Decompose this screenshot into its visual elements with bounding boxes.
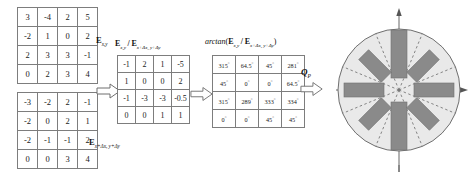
cell: 289° <box>236 92 259 110</box>
table-row: 3 -4 2 5 <box>18 8 98 27</box>
table-row: 45° 0° 0° 64.5° <box>213 74 305 92</box>
degree-symbol: ° <box>272 114 274 119</box>
cell: 0 <box>18 150 38 169</box>
ratio-numerator: Ex,y <box>115 39 126 48</box>
cell: -3 <box>136 90 154 107</box>
cell: -2 <box>18 27 38 46</box>
degree-symbol: ° <box>274 96 276 101</box>
cell: 1 <box>154 107 172 124</box>
cell: -2 <box>18 131 38 150</box>
arctan-close-paren: ) <box>274 37 277 46</box>
table-row: 0 2 3 4 <box>18 65 98 84</box>
rose-bar <box>414 83 454 97</box>
label-qp: QP <box>301 68 311 79</box>
cell: 0° <box>236 110 259 128</box>
cell: -0.5 <box>172 90 190 107</box>
cell: -1 <box>118 56 136 73</box>
cell-value: 281 <box>287 62 296 69</box>
cell: 3 <box>58 150 78 169</box>
cell: 2 <box>78 27 98 46</box>
rose-bar <box>391 30 407 78</box>
cell: -2 <box>38 93 58 112</box>
degree-symbol: ° <box>228 60 230 65</box>
table-row: -1 -3 -3 -0.5 <box>118 90 190 107</box>
matrix-exdx-ydy: -3 -2 2 -1 -2 0 2 1 -2 -1 -1 2 0 0 3 4 <box>17 92 98 169</box>
cell: 3 <box>38 46 58 65</box>
cell: -3 <box>18 93 38 112</box>
degree-symbol: ° <box>248 114 250 119</box>
cell: 2 <box>58 93 78 112</box>
cell: 45° <box>213 74 236 92</box>
cell: 1 <box>78 112 98 131</box>
cell: -1 <box>78 93 98 112</box>
label-matrix-ratio: Ex,y / Ex+Δx, y+Δy <box>115 40 161 51</box>
label-subscript: x,y <box>102 41 108 47</box>
table-row: 0 0 3 4 <box>18 150 98 169</box>
cell-value: 315 <box>218 62 227 69</box>
cell: 3 <box>58 46 78 65</box>
matrix-ratio: -1 2 1 -5 1 0 0 2 -1 -3 -3 -0.5 0 0 1 <box>117 55 190 124</box>
cell-value: 315 <box>218 98 227 105</box>
cell: 2 <box>38 65 58 84</box>
matrix-exy: 3 -4 2 5 -2 1 0 2 2 3 3 -1 0 2 3 4 <box>17 7 98 84</box>
cell: 0 <box>38 150 58 169</box>
cell-value: 289 <box>241 98 250 105</box>
cell: 1 <box>118 73 136 90</box>
label-subscript: P <box>308 73 311 79</box>
cell: -1 <box>118 90 136 107</box>
cell: 64.5° <box>236 56 259 74</box>
label-matrix-exdx-ydy: Ex+Δx, y+Δy <box>89 138 120 149</box>
label-matrix-arctan: arctan(Ex,y / Ex+Δx, y+Δy) <box>205 38 276 49</box>
denominator-sub: x+Δx, y+Δy <box>250 43 274 48</box>
label-matrix-exy: Ex,y <box>96 36 108 47</box>
cell: 0 <box>136 73 154 90</box>
figure-canvas: 3 -4 2 5 -2 1 0 2 2 3 3 -1 0 2 3 4 <box>0 0 470 179</box>
cell: 4 <box>78 150 98 169</box>
table-row: 0 0 1 1 <box>118 107 190 124</box>
arrow-3-icon <box>300 80 324 98</box>
degree-symbol: ° <box>226 78 228 83</box>
cell: 2 <box>18 46 38 65</box>
table-row: -3 -2 2 -1 <box>18 93 98 112</box>
table-row: -1 2 1 -5 <box>118 56 190 73</box>
cell: 2 <box>136 56 154 73</box>
table-row: -2 1 0 2 <box>18 27 98 46</box>
cell: -1 <box>38 131 58 150</box>
table-row: -2 -1 -1 2 <box>18 131 98 150</box>
table-row: 2 3 3 -1 <box>18 46 98 65</box>
cell: 1 <box>172 107 190 124</box>
ratio-denominator: Ex+Δx, y+Δy <box>131 39 160 48</box>
cell: 4 <box>78 65 98 84</box>
cell: 1 <box>38 27 58 46</box>
cell: 0 <box>136 107 154 124</box>
matrix-arctan: 315° 64.5° 45° 281° 45° 0° 0° 64.5° 315°… <box>212 55 305 128</box>
cell: 333° <box>259 92 282 110</box>
cell: 45° <box>259 110 282 128</box>
table-row: 315° 64.5° 45° 281° <box>213 56 305 74</box>
table-row: -2 0 2 1 <box>18 112 98 131</box>
degree-symbol: ° <box>297 60 299 65</box>
degree-symbol: ° <box>251 96 253 101</box>
cell: 5 <box>78 8 98 27</box>
cell: -5 <box>172 56 190 73</box>
arrow-2-icon <box>190 85 214 103</box>
denominator-sub: x+Δx, y+Δy <box>137 45 161 50</box>
cell: -3 <box>154 90 172 107</box>
cell: -1 <box>58 131 78 150</box>
degree-symbol: ° <box>272 60 274 65</box>
table-row: 315° 289° 333° 334° <box>213 92 305 110</box>
cell: 45° <box>282 110 305 128</box>
cell: 315° <box>213 56 236 74</box>
table-row: 1 0 0 2 <box>118 73 190 90</box>
rose-bar <box>344 83 384 97</box>
cell: 2 <box>58 112 78 131</box>
degree-symbol: ° <box>225 114 227 119</box>
degree-symbol: ° <box>271 78 273 83</box>
cell: 3 <box>58 65 78 84</box>
table-row: 0° 0° 45° 45° <box>213 110 305 128</box>
cell-value: 64.5 <box>241 62 252 69</box>
cell: -2 <box>18 112 38 131</box>
cell: 0° <box>236 74 259 92</box>
cell: 2 <box>172 73 190 90</box>
arctan-fn: arctan <box>205 37 226 46</box>
